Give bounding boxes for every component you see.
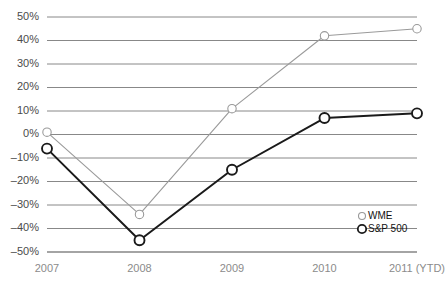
legend-marker-wme — [359, 213, 366, 220]
series-line-s-p-500 — [47, 113, 417, 240]
data-point[interactable] — [135, 210, 143, 218]
line-chart: 50%40%30%20%10%0%–10%–20%–30%–40%–50%200… — [0, 0, 445, 287]
series-markers-wme — [43, 25, 421, 219]
y-axis-tick-label: 10% — [17, 104, 39, 116]
x-axis-tick-label: 2010 — [312, 262, 336, 274]
data-point[interactable] — [228, 104, 236, 112]
data-point[interactable] — [320, 113, 330, 123]
y-axis-tick-label: –30% — [11, 198, 39, 210]
x-axis-labels: 20072008200920102011 (YTD) — [35, 262, 445, 274]
y-axis-tick-label: 20% — [17, 80, 39, 92]
data-point[interactable] — [43, 128, 51, 136]
x-axis-tick-label: 2009 — [220, 262, 244, 274]
legend-marker-s-p-500 — [358, 225, 366, 233]
data-point[interactable] — [413, 25, 421, 33]
series-markers-s-p-500 — [42, 108, 422, 245]
legend-label-wme: WME — [368, 210, 393, 221]
x-axis-tick-label: 2008 — [127, 262, 151, 274]
y-gridlines: 50%40%30%20%10%0%–10%–20%–30%–40%–50% — [11, 10, 417, 257]
data-point[interactable] — [42, 144, 52, 154]
legend-label-s-p-500: S&P 500 — [368, 223, 408, 234]
y-axis-tick-label: 30% — [17, 57, 39, 69]
y-axis-tick-label: 50% — [17, 10, 39, 22]
series-line-wme — [47, 29, 417, 215]
data-point[interactable] — [412, 108, 422, 118]
y-axis-tick-label: –40% — [11, 221, 39, 233]
data-point[interactable] — [135, 235, 145, 245]
data-point[interactable] — [227, 165, 237, 175]
chart-container: 50%40%30%20%10%0%–10%–20%–30%–40%–50%200… — [0, 0, 445, 287]
x-axis-tick-label: 2011 (YTD) — [389, 262, 445, 274]
data-point[interactable] — [320, 32, 328, 40]
y-axis-tick-label: 40% — [17, 33, 39, 45]
y-axis-tick-label: 0% — [23, 127, 39, 139]
chart-legend: WMES&P 500 — [358, 210, 408, 234]
y-axis-tick-label: –50% — [11, 245, 39, 257]
x-axis-tick-label: 2007 — [35, 262, 59, 274]
y-axis-tick-label: –10% — [11, 151, 39, 163]
y-axis-tick-label: –20% — [11, 174, 39, 186]
